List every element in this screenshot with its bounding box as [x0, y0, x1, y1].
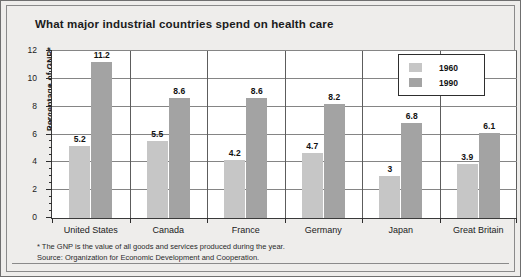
y-tick-label: 10	[28, 73, 37, 83]
bar-1960: 3	[379, 176, 400, 218]
category-label: Japan	[388, 225, 413, 235]
bar-1960: 3.9	[457, 164, 478, 218]
bar-value-label: 4.7	[306, 141, 318, 151]
x-tick	[207, 218, 208, 223]
bar-value-label: 11.2	[94, 50, 110, 60]
category-label: Canada	[152, 225, 184, 235]
x-tick	[440, 218, 441, 223]
bar-value-label: 6.8	[406, 111, 418, 121]
y-tick-label: 0	[32, 212, 37, 222]
legend-swatch-1960-icon	[409, 63, 422, 72]
chart-figure: What major industrial countries spend on…	[0, 0, 521, 277]
footnotes: * The GNP is the value of all goods and …	[37, 241, 285, 263]
bar-value-label: 6.1	[483, 121, 495, 131]
bar-value-label: 8.6	[173, 86, 185, 96]
bar-1960: 5.2	[69, 146, 90, 218]
x-tick	[362, 218, 363, 223]
legend-label-1990: 1990	[439, 78, 458, 88]
bar-1990: 11.2	[91, 62, 112, 218]
bar-group: 4.78.2Germany	[285, 51, 363, 218]
bar-1990: 8.6	[246, 98, 267, 218]
figure-inner-frame: What major industrial countries spend on…	[6, 5, 515, 272]
bar-group: 5.211.2United States	[52, 51, 130, 218]
bar-1960: 4.7	[302, 153, 323, 218]
bar-value-label: 8.2	[328, 92, 340, 102]
bar-value-label: 5.5	[151, 129, 163, 139]
category-label: Germany	[305, 225, 342, 235]
y-tick-label: 4	[32, 156, 37, 166]
bar-value-label: 3.9	[461, 152, 473, 162]
category-label: United States	[64, 225, 118, 235]
y-tick-label: 6	[32, 129, 37, 139]
legend-item-1990: 1990	[399, 75, 484, 90]
bar-value-label: 5.2	[74, 134, 86, 144]
bar-1990: 6.8	[401, 123, 422, 218]
bar-1990: 8.2	[324, 104, 345, 218]
y-tick-label: 8	[32, 101, 37, 111]
bar-group: 5.58.6Canada	[130, 51, 208, 218]
legend-swatch-1990-icon	[409, 78, 422, 87]
legend-label-1960: 1960	[439, 63, 458, 73]
bottom-divider	[12, 263, 509, 264]
y-tick-label: 12	[28, 45, 37, 55]
x-tick	[130, 218, 131, 223]
footnote-source: Source: Organization for Economic Develo…	[37, 252, 285, 263]
x-tick	[285, 218, 286, 223]
category-label: Great Britain	[453, 225, 504, 235]
chart-title: What major industrial countries spend on…	[35, 18, 334, 30]
x-tick	[52, 218, 53, 223]
bar-1990: 6.1	[479, 133, 500, 218]
bar-1960: 4.2	[224, 160, 245, 218]
legend-item-1960: 1960	[399, 60, 484, 75]
bar-value-label: 8.6	[251, 86, 263, 96]
x-tick	[516, 218, 517, 223]
chart-legend: 1960 1990	[398, 54, 485, 96]
bar-1990: 8.6	[169, 98, 190, 218]
plot-wrapper: 024681012 5.211.2United States5.58.6Cana…	[51, 51, 517, 219]
y-tick-label: 2	[32, 184, 37, 194]
bar-value-label: 4.2	[229, 148, 241, 158]
bar-group: 4.28.6France	[207, 51, 285, 218]
bar-1960: 5.5	[147, 141, 168, 218]
category-label: France	[232, 225, 260, 235]
bar-value-label: 3	[387, 164, 392, 174]
footnote-gnp-definition: * The GNP is the value of all goods and …	[37, 241, 285, 252]
